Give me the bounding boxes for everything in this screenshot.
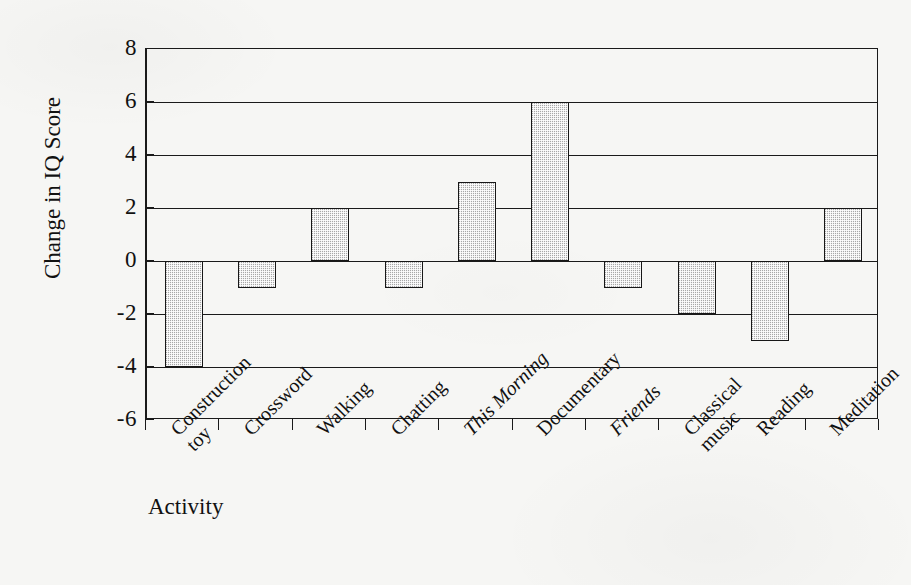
x-axis-tick-mark xyxy=(658,419,659,430)
y-axis-tick-labels: 86420-2-4-6 xyxy=(85,48,137,419)
y-axis-tick-label: 2 xyxy=(95,195,137,218)
bar xyxy=(531,102,569,261)
y-axis-tick-mark xyxy=(145,260,154,261)
y-axis-tick-label: 0 xyxy=(95,248,137,271)
x-axis-tick-mark xyxy=(878,419,879,430)
bar xyxy=(678,261,716,314)
bar xyxy=(385,261,423,288)
x-axis-tick-mark xyxy=(438,419,439,430)
gridline xyxy=(147,208,877,209)
y-axis-tick-label: 6 xyxy=(95,89,137,112)
bar xyxy=(458,182,496,262)
gridline xyxy=(147,155,877,156)
bar xyxy=(165,261,203,367)
chart-figure: 86420-2-4-6 Change in IQ Score Construct… xyxy=(0,0,911,585)
y-axis-tick-label: -2 xyxy=(95,301,137,324)
bar xyxy=(604,261,642,288)
x-axis-title: Activity xyxy=(148,495,223,519)
x-axis-tick-mark xyxy=(365,419,366,430)
y-axis-tick-label: -6 xyxy=(95,407,137,430)
bar xyxy=(824,208,862,261)
x-axis-tick-mark xyxy=(805,419,806,430)
x-axis-tick-mark xyxy=(145,419,146,430)
y-axis-tick-label: 4 xyxy=(95,142,137,165)
bar xyxy=(311,208,349,261)
bar xyxy=(238,261,276,288)
y-axis-tick-mark xyxy=(145,154,154,155)
y-axis-tick-label: 8 xyxy=(95,36,137,59)
y-axis-tick-mark xyxy=(145,101,154,102)
y-axis-tick-mark xyxy=(145,366,154,367)
y-axis-tick-mark xyxy=(145,48,154,49)
y-axis-tick-mark xyxy=(145,313,154,314)
y-axis-tick-mark xyxy=(145,419,154,420)
y-axis-tick-mark xyxy=(145,207,154,208)
bar xyxy=(751,261,789,341)
y-axis-tick-label: -4 xyxy=(95,354,137,377)
x-axis-tick-mark xyxy=(292,419,293,430)
y-axis-title: Change in IQ Score xyxy=(40,58,66,318)
x-axis-tick-mark xyxy=(512,419,513,430)
x-axis-tick-mark xyxy=(585,419,586,430)
gridline xyxy=(147,102,877,103)
plot-area xyxy=(145,48,878,419)
